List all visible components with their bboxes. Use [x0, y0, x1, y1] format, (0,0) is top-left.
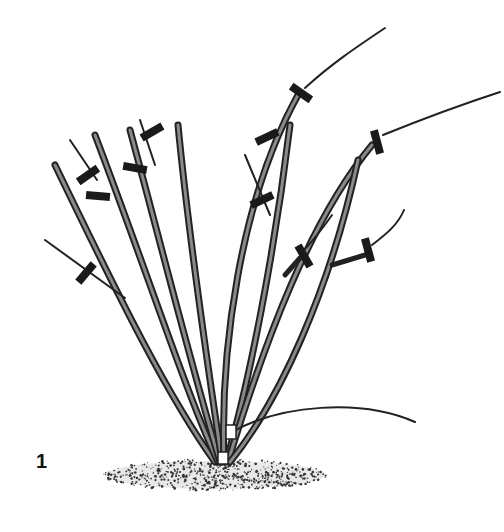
figure-number-label: 1	[36, 450, 47, 473]
rose-bush-drawing	[0, 0, 504, 532]
rose-pruning-illustration: 1	[0, 0, 504, 532]
canes	[45, 28, 500, 462]
